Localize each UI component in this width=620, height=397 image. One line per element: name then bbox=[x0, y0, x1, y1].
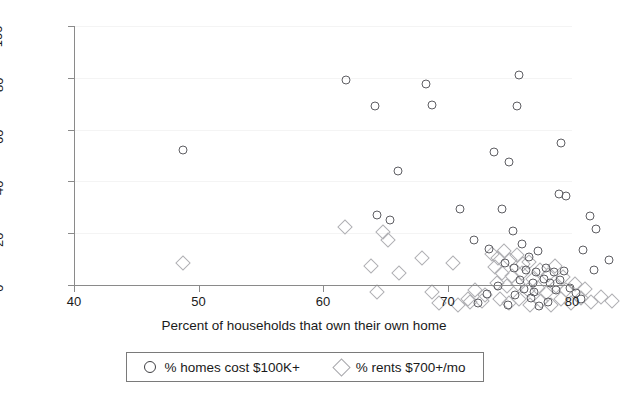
data-point-diamond bbox=[392, 266, 408, 282]
data-point-circle bbox=[510, 264, 519, 273]
y-tick-label: 100 bbox=[0, 26, 6, 48]
circle-icon bbox=[144, 361, 156, 373]
data-point-diamond bbox=[414, 250, 430, 266]
x-tick-label: 70 bbox=[440, 294, 454, 309]
data-point-circle bbox=[394, 167, 403, 176]
x-tick-label: 80 bbox=[565, 294, 579, 309]
y-tick bbox=[68, 78, 74, 79]
x-tick bbox=[74, 286, 75, 292]
data-point-diamond bbox=[175, 255, 191, 271]
plot-area bbox=[74, 26, 572, 285]
gridline bbox=[74, 233, 572, 234]
data-point-circle bbox=[557, 138, 566, 147]
data-point-diamond bbox=[363, 258, 379, 274]
y-tick-label: 80 bbox=[0, 77, 6, 91]
data-point-circle bbox=[559, 266, 568, 275]
data-point-circle bbox=[515, 71, 524, 80]
gridline bbox=[74, 26, 572, 27]
data-point-circle bbox=[589, 265, 598, 274]
data-point-circle bbox=[456, 204, 465, 213]
data-point-circle bbox=[592, 225, 601, 234]
data-point-circle bbox=[533, 247, 542, 256]
data-point-circle bbox=[516, 275, 525, 284]
data-point-circle bbox=[527, 294, 536, 303]
data-point-circle bbox=[552, 286, 561, 295]
legend-entry-homes[interactable]: % homes cost $100K+ bbox=[144, 360, 299, 375]
data-point-circle bbox=[562, 191, 571, 200]
x-axis-title: Percent of households that own their own… bbox=[0, 318, 608, 333]
x-tick-label: 60 bbox=[316, 294, 330, 309]
legend-label-rents: % rents $700+/mo bbox=[356, 360, 466, 375]
data-point-circle bbox=[370, 102, 379, 111]
data-point-circle bbox=[501, 259, 510, 268]
data-point-circle bbox=[373, 211, 382, 220]
data-point-circle bbox=[470, 235, 479, 244]
data-point-circle bbox=[482, 290, 491, 299]
data-point-circle bbox=[585, 212, 594, 221]
legend: % homes cost $100K+ % rents $700+/mo bbox=[126, 352, 484, 382]
y-tick-label: 60 bbox=[0, 129, 6, 143]
data-point-circle bbox=[517, 239, 526, 248]
data-point-circle bbox=[473, 299, 482, 308]
data-point-circle bbox=[493, 282, 502, 291]
y-tick-label: 20 bbox=[0, 233, 6, 247]
data-point-circle bbox=[178, 146, 187, 155]
gridline bbox=[74, 130, 572, 131]
y-tick-label: 40 bbox=[0, 181, 6, 195]
x-tick bbox=[448, 286, 449, 292]
data-point-circle bbox=[524, 252, 533, 261]
gridline bbox=[74, 78, 572, 79]
gridline bbox=[74, 181, 572, 182]
data-point-circle bbox=[522, 265, 531, 274]
x-tick-label: 40 bbox=[67, 294, 81, 309]
data-point-circle bbox=[578, 246, 587, 255]
y-tick bbox=[68, 181, 74, 182]
data-point-circle bbox=[604, 256, 613, 265]
data-point-circle bbox=[490, 147, 499, 156]
data-point-circle bbox=[534, 301, 543, 310]
data-point-circle bbox=[385, 216, 394, 225]
data-point-circle bbox=[503, 300, 512, 309]
x-tick-label: 50 bbox=[191, 294, 205, 309]
legend-label-homes: % homes cost $100K+ bbox=[164, 360, 299, 375]
y-axis-line bbox=[74, 26, 75, 285]
x-tick bbox=[199, 286, 200, 292]
y-tick bbox=[68, 26, 74, 27]
data-point-diamond bbox=[369, 284, 385, 300]
data-point-circle bbox=[485, 244, 494, 253]
data-point-circle bbox=[497, 204, 506, 213]
data-point-circle bbox=[556, 275, 565, 284]
data-point-circle bbox=[543, 297, 552, 306]
x-tick bbox=[323, 286, 324, 292]
data-point-circle bbox=[421, 80, 430, 89]
data-point-circle bbox=[427, 101, 436, 110]
data-point-circle bbox=[505, 158, 514, 167]
data-point-circle bbox=[512, 102, 521, 111]
legend-entry-rents[interactable]: % rents $700+/mo bbox=[335, 360, 466, 375]
y-tick bbox=[68, 233, 74, 234]
x-tick bbox=[572, 286, 573, 292]
data-point-circle bbox=[341, 76, 350, 85]
data-point-diamond bbox=[445, 255, 461, 271]
y-tick bbox=[68, 130, 74, 131]
data-point-circle bbox=[508, 226, 517, 235]
y-tick-label: 0 bbox=[0, 285, 6, 292]
data-point-circle bbox=[511, 291, 520, 300]
diamond-icon bbox=[332, 358, 350, 376]
